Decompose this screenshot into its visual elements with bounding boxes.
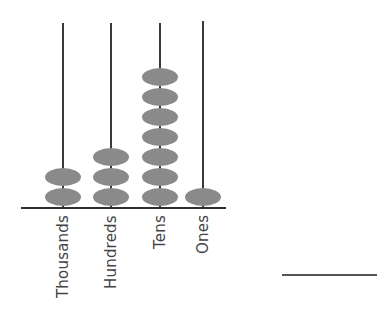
- bead-tens: [142, 168, 178, 186]
- bead-thousands: [45, 188, 81, 206]
- bead-hundreds: [93, 148, 129, 166]
- bead-ones: [185, 188, 221, 206]
- column-label-thousands: Thousands: [54, 215, 72, 298]
- bead-thousands: [45, 168, 81, 186]
- bead-tens: [142, 128, 178, 146]
- rod-ones: [202, 21, 204, 207]
- bead-hundreds: [93, 188, 129, 206]
- column-label-ones: Ones: [194, 215, 212, 254]
- column-label-tens: Tens: [151, 215, 169, 249]
- bead-tens: [142, 108, 178, 126]
- bead-tens: [142, 148, 178, 166]
- abacus-base-line: [21, 207, 226, 209]
- bead-tens: [142, 68, 178, 86]
- bead-tens: [142, 88, 178, 106]
- abacus-diagram: ThousandsHundredsTensOnes: [0, 0, 377, 325]
- column-label-hundreds: Hundreds: [102, 215, 120, 289]
- answer-blank-line: [282, 274, 377, 276]
- bead-hundreds: [93, 168, 129, 186]
- bead-tens: [142, 188, 178, 206]
